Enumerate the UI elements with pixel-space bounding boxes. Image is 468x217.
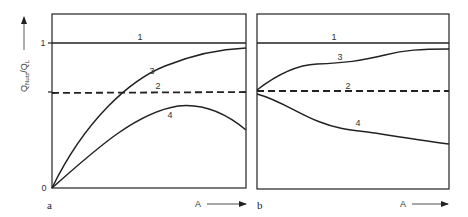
x-axis-label-b: A	[400, 199, 406, 209]
curve-label-4-a: 4	[167, 110, 172, 120]
curve-3-b	[257, 49, 449, 90]
x-axis-label-a: A	[195, 199, 201, 209]
curve-label-2-b: 2	[345, 81, 350, 91]
ylabel-sub-nutz: Nutz	[24, 73, 30, 85]
panel-b: 1 3 2 4 b A	[257, 14, 449, 211]
figure: QNutz/QL 1 0 1 3 2 4 a A 1 3 2 4 b A	[0, 0, 468, 217]
curve-4-b	[257, 94, 449, 144]
curve-label-1-b: 1	[331, 32, 336, 42]
y-tick-0: 0	[41, 183, 46, 193]
curve-4-a	[52, 106, 246, 188]
curve-label-1-a: 1	[137, 32, 142, 42]
panel-a-label: a	[47, 199, 52, 211]
curve-label-2-a: 2	[155, 81, 160, 91]
panel-b-frame	[257, 14, 449, 189]
ylabel-slash-q: /Q	[19, 63, 29, 73]
ylabel-sub-l: L	[24, 59, 30, 63]
y-axis-label: QNutz/QL	[19, 59, 30, 92]
curve-2-a	[52, 92, 246, 93]
y-tick-1: 1	[40, 38, 45, 48]
curve-label-4-b: 4	[355, 118, 360, 128]
curve-label-3-a: 3	[149, 66, 154, 76]
panel-b-label: b	[257, 199, 263, 211]
ylabel-q: Q	[19, 85, 29, 92]
svg-text:QNutz/QL: QNutz/QL	[19, 59, 30, 92]
curve-label-3-b: 3	[337, 52, 342, 62]
panel-a: 1 3 2 4 a A	[47, 14, 246, 211]
